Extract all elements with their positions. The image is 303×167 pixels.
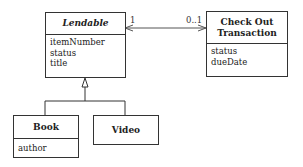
multiplicity-lendable: 1 <box>130 15 135 25</box>
attribute: title <box>50 58 121 69</box>
class-checkout-name: Check Out Transaction <box>207 12 287 44</box>
class-checkout-attributes: status dueDate <box>207 44 287 69</box>
class-name-line: Check Out <box>221 17 274 28</box>
class-book-attributes: author <box>14 139 78 156</box>
class-lendable-name: Lendable <box>46 13 125 35</box>
class-book[interactable]: Book author <box>13 115 79 158</box>
class-video-name: Video <box>94 116 158 144</box>
attribute: author <box>18 143 74 154</box>
attribute: dueDate <box>211 57 283 68</box>
class-lendable[interactable]: Lendable itemNumber status title <box>45 12 126 78</box>
class-lendable-attributes: itemNumber status title <box>46 35 125 71</box>
attribute: itemNumber <box>50 37 121 48</box>
attribute: status <box>211 46 283 57</box>
class-book-name: Book <box>14 116 78 139</box>
class-name-line: Transaction <box>217 28 277 39</box>
class-checkout-transaction[interactable]: Check Out Transaction status dueDate <box>206 11 288 77</box>
generalization-triangle-icon <box>82 78 88 87</box>
class-video[interactable]: Video <box>93 115 159 145</box>
multiplicity-checkout: 0..1 <box>186 15 202 25</box>
attribute: status <box>50 48 121 59</box>
